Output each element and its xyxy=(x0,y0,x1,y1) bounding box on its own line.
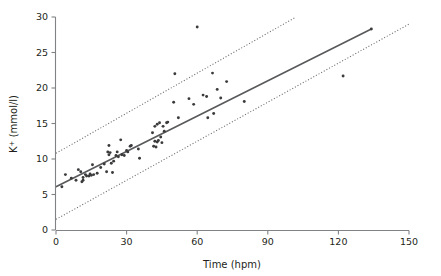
data-point xyxy=(105,170,108,173)
data-point xyxy=(130,144,133,147)
data-point xyxy=(211,72,214,75)
data-point xyxy=(112,160,115,163)
y-axis-ticks xyxy=(52,17,56,230)
data-point xyxy=(219,96,222,99)
data-point xyxy=(75,179,78,182)
lower-prediction-band-line xyxy=(56,24,409,219)
data-point xyxy=(117,155,120,158)
x-axis-tick-label: 60 xyxy=(191,236,203,247)
data-point xyxy=(82,176,85,179)
data-point xyxy=(159,136,162,139)
y-axis-tick-labels: 051015202530 xyxy=(36,11,48,235)
x-axis-tick-label: 120 xyxy=(329,236,347,247)
x-axis-tick-label: 150 xyxy=(400,236,418,247)
data-point xyxy=(172,101,175,104)
data-point xyxy=(188,97,191,100)
data-point xyxy=(153,125,156,128)
data-point xyxy=(79,170,82,173)
data-point xyxy=(163,130,166,133)
data-point xyxy=(110,162,113,165)
y-axis-title: K+ (mmol/l) xyxy=(8,95,20,153)
data-point xyxy=(108,144,111,147)
y-axis-tick-label: 15 xyxy=(36,118,48,129)
data-point xyxy=(225,80,228,83)
y-axis-tick-label: 0 xyxy=(42,224,48,235)
data-point xyxy=(243,100,246,103)
y-axis-tick-label: 30 xyxy=(36,11,48,22)
data-point xyxy=(70,177,73,180)
x-axis-tick-labels: 0306090120150 xyxy=(53,236,418,247)
data-point xyxy=(212,112,215,115)
x-axis-tick-label: 0 xyxy=(53,236,59,247)
axes-group xyxy=(52,17,410,235)
data-point xyxy=(205,95,208,98)
data-point xyxy=(123,154,126,157)
data-point xyxy=(119,138,122,141)
data-point xyxy=(64,173,67,176)
data-point xyxy=(166,121,169,124)
data-point xyxy=(151,131,154,134)
y-axis-title-unit: (mmol/l) xyxy=(8,95,19,141)
data-point xyxy=(192,103,195,106)
data-point xyxy=(160,141,163,144)
data-point xyxy=(99,166,102,169)
data-point xyxy=(216,88,219,91)
data-point xyxy=(82,179,85,182)
data-point xyxy=(157,139,160,142)
data-point xyxy=(202,94,205,97)
data-point xyxy=(116,150,119,153)
data-point xyxy=(162,125,165,128)
x-axis-title: Time (hpm) xyxy=(202,259,261,270)
data-point xyxy=(77,168,80,171)
data-point xyxy=(96,172,99,175)
scatter-plot: 0306090120150 051015202530 Time (hpm) K+… xyxy=(0,0,441,276)
figure-container: 0306090120150 051015202530 Time (hpm) K+… xyxy=(0,0,441,276)
x-axis-ticks xyxy=(56,231,409,235)
data-point xyxy=(126,150,129,153)
data-point xyxy=(196,25,199,28)
data-point xyxy=(103,163,106,166)
data-point xyxy=(206,116,209,119)
y-axis-tick-label: 10 xyxy=(36,153,48,164)
data-point xyxy=(91,163,94,166)
data-point xyxy=(173,72,176,75)
data-point xyxy=(370,28,373,31)
data-point xyxy=(109,151,112,154)
data-point xyxy=(92,173,95,176)
x-axis-tick-label: 30 xyxy=(121,236,133,247)
data-point xyxy=(60,185,63,188)
data-point xyxy=(177,116,180,119)
y-axis-tick-label: 20 xyxy=(36,82,48,93)
data-point xyxy=(158,121,161,124)
data-point xyxy=(137,148,140,151)
y-axis-tick-label: 25 xyxy=(36,47,48,58)
data-point xyxy=(138,157,141,160)
data-point xyxy=(155,145,158,148)
x-axis-tick-label: 90 xyxy=(262,236,274,247)
data-point xyxy=(111,171,114,174)
prediction-bands xyxy=(56,17,409,219)
data-point xyxy=(342,74,345,77)
y-axis-tick-label: 5 xyxy=(42,189,48,200)
